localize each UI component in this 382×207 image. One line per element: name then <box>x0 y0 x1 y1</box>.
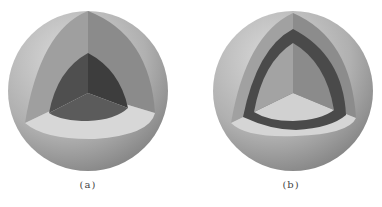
sphere-cutaway-diagram-a <box>0 0 191 207</box>
figure-a: (a) <box>0 0 191 207</box>
caption-b: (b) <box>261 179 321 190</box>
figure-b: (b) <box>191 0 382 207</box>
sphere-cutaway-diagram-b <box>191 0 382 207</box>
caption-a: (a) <box>58 179 118 190</box>
